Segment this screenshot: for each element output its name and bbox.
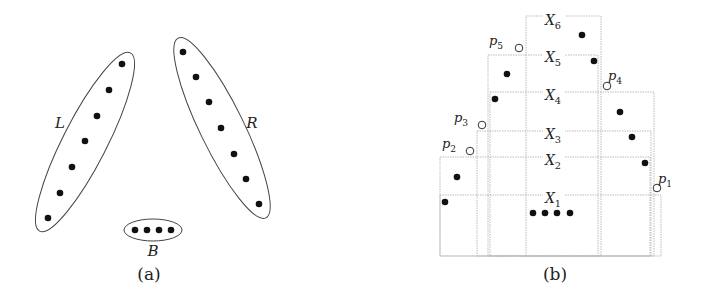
point-filled: [492, 96, 499, 103]
point-filled: [45, 215, 52, 222]
point-filled: [617, 109, 624, 116]
panel-b: X6X5X4X3X2X1p5p4p3p2p1: [440, 12, 672, 256]
group-label-R: R: [245, 114, 257, 132]
point-filled: [554, 210, 561, 217]
point-hollow-p4: [603, 82, 611, 90]
point-filled: [193, 74, 200, 81]
figure: LRB X6X5X4X3X2X1p5p4p3p2p1 (a) (b): [0, 0, 710, 303]
point-hollow-p2: [466, 147, 474, 155]
group-label-L: L: [54, 114, 65, 132]
point-filled: [530, 210, 537, 217]
point-filled: [629, 134, 636, 141]
point-filled: [442, 199, 449, 206]
point-filled: [69, 164, 76, 171]
point-label-p5: p5: [489, 33, 503, 51]
point-filled: [591, 58, 598, 65]
point-hollow-p3: [478, 121, 486, 129]
point-label-p3: p3: [454, 110, 468, 128]
point-filled: [168, 227, 175, 234]
point-filled: [206, 99, 213, 106]
point-filled: [119, 61, 126, 68]
point-filled: [82, 138, 89, 145]
point-filled: [57, 190, 64, 197]
point-filled: [642, 160, 649, 167]
point-filled: [579, 32, 586, 39]
caption-b: (b): [543, 264, 567, 284]
point-filled: [180, 49, 187, 56]
point-filled: [156, 227, 163, 234]
panel-a: LRB: [20, 28, 286, 260]
group-label-B: B: [146, 242, 158, 260]
point-filled: [243, 176, 250, 183]
box-X4: [490, 92, 654, 256]
point-filled: [94, 113, 101, 120]
point-hollow-p5: [515, 44, 523, 52]
point-filled: [454, 174, 461, 181]
point-filled: [218, 125, 225, 132]
point-filled: [106, 87, 113, 94]
point-filled: [567, 210, 574, 217]
point-filled: [504, 71, 511, 78]
point-filled: [144, 227, 151, 234]
point-label-p2: p2: [442, 136, 456, 154]
point-filled: [132, 227, 139, 234]
point-filled: [231, 151, 238, 158]
point-filled: [256, 201, 263, 208]
point-filled: [542, 210, 549, 217]
caption-a: (a): [137, 264, 160, 284]
